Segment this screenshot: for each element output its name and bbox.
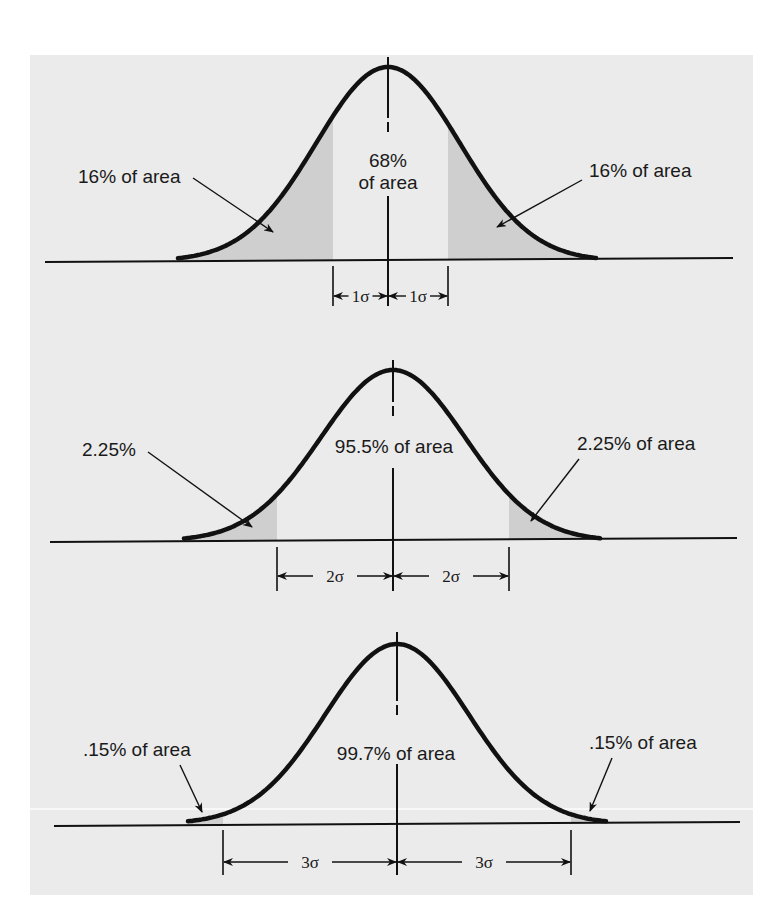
center-label-line2: of area	[358, 172, 418, 193]
center-label: 95.5% of area	[335, 436, 454, 457]
dimension-left-label: 3σ	[301, 853, 319, 872]
dimension-left-label: 2σ	[326, 567, 344, 586]
dimension-right-label: 2σ	[442, 567, 460, 586]
dimension-left-label: 1σ	[352, 287, 370, 306]
right-tail-label: 2.25% of area	[577, 433, 696, 454]
dimension-right-label: 3σ	[475, 853, 493, 872]
center-label-line1: 68%	[369, 150, 407, 171]
left-tail-label: .15% of area	[83, 739, 191, 760]
left-tail-label: 2.25%	[82, 439, 136, 460]
right-tail-label: 16% of area	[589, 160, 692, 181]
normal-distribution-figure: 68% of area 16% of area 16% of area 1σ 1…	[0, 0, 779, 913]
right-tail-label: .15% of area	[589, 732, 697, 753]
dimension-right-label: 1σ	[409, 287, 427, 306]
center-label: 99.7% of area	[337, 743, 456, 764]
left-tail-label: 16% of area	[78, 166, 181, 187]
